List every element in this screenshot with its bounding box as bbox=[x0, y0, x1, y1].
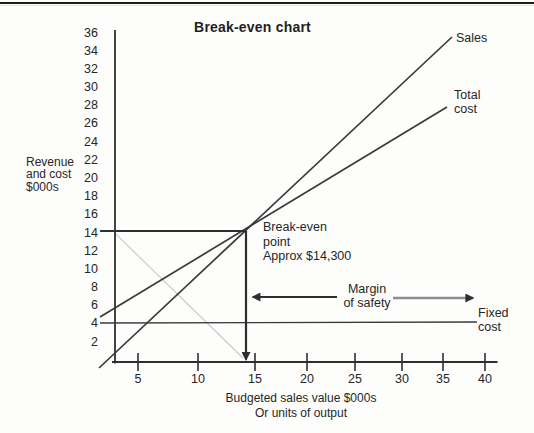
y-tick-label: 30 bbox=[58, 81, 98, 94]
x-tick-label: 40 bbox=[471, 373, 499, 386]
y-tick-label: 26 bbox=[58, 117, 98, 130]
y-tick-label: 12 bbox=[58, 245, 98, 258]
break-even-annotation: Break-even point Approx $14,300 bbox=[263, 220, 351, 264]
x-tick-label: 10 bbox=[184, 373, 212, 386]
fixed-cost-line bbox=[100, 322, 477, 323]
x-tick-label: 25 bbox=[341, 373, 369, 386]
y-tick-label: 4 bbox=[58, 317, 98, 330]
sales-line bbox=[99, 37, 452, 368]
x-tick-label: 35 bbox=[429, 373, 457, 386]
y-tick-label: 14 bbox=[58, 227, 98, 240]
y-tick-label: 16 bbox=[58, 208, 98, 221]
y-tick-label: 18 bbox=[58, 190, 98, 203]
x-axis-title: Budgeted sales value $000s Or units of o… bbox=[190, 391, 412, 421]
x-tick-label: 20 bbox=[293, 373, 321, 386]
y-tick-label: 28 bbox=[58, 99, 98, 112]
y-tick-label: 10 bbox=[58, 263, 98, 276]
y-tick-label: 32 bbox=[58, 63, 98, 76]
break-even-chart-figure: Break-even chart Revenue and cost $000s … bbox=[0, 0, 534, 433]
y-tick-label: 6 bbox=[58, 299, 98, 312]
x-tick-label: 5 bbox=[124, 373, 152, 386]
y-tick-label: 2 bbox=[58, 336, 98, 349]
y-tick-label: 8 bbox=[58, 281, 98, 294]
fixed-cost-line-label: Fixed cost bbox=[478, 306, 509, 334]
y-tick-label: 22 bbox=[58, 154, 98, 167]
x-tick-label: 15 bbox=[241, 373, 269, 386]
sales-line-label: Sales bbox=[456, 31, 487, 46]
y-tick-label: 34 bbox=[58, 45, 98, 58]
total-cost-line-label: Total cost bbox=[454, 89, 480, 116]
margin-of-safety-label: Margin of safety bbox=[324, 282, 410, 310]
y-tick-label: 24 bbox=[58, 136, 98, 149]
x-tick-label: 30 bbox=[388, 373, 416, 386]
y-tick-label: 20 bbox=[58, 172, 98, 185]
y-tick-label: 36 bbox=[58, 27, 98, 40]
